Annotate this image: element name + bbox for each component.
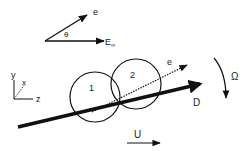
theta-label: θ bbox=[64, 30, 69, 39]
field-vectors: e θ E∞ bbox=[45, 7, 115, 48]
velocity-label: U bbox=[134, 129, 141, 140]
rotation-label: Ω bbox=[231, 71, 239, 82]
diagram-canvas: e θ E∞ y x z 1 2 e D Ω U bbox=[0, 0, 251, 151]
y-axis-label: y bbox=[11, 70, 16, 80]
rotation-arrow bbox=[214, 58, 226, 98]
e-vector-label: e bbox=[93, 7, 98, 17]
x-axis-label: x bbox=[22, 78, 26, 87]
doublet-axis-label: e bbox=[167, 57, 172, 67]
z-axis-label: z bbox=[36, 94, 41, 104]
rod-arrow bbox=[18, 84, 200, 127]
physics-diagram: e θ E∞ y x z 1 2 e D Ω U bbox=[0, 0, 251, 151]
E-field-label: E∞ bbox=[105, 37, 115, 48]
coordinate-axes: y x z bbox=[11, 70, 41, 104]
particle-1-label: 1 bbox=[89, 83, 94, 93]
rod-label: D bbox=[193, 97, 200, 108]
particle-2-label: 2 bbox=[130, 70, 135, 80]
